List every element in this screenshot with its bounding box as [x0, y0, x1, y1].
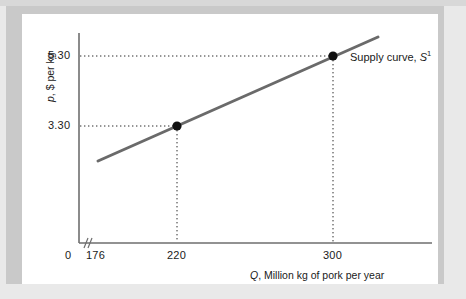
supply-curve-label-superscript: 1 [427, 49, 431, 58]
figure-root: p, $ per kg 5.30 3.30 0 176 220 300 Q, M… [0, 0, 466, 299]
supply-curve-label: Supply curve, S1 [350, 50, 431, 63]
x-axis-title-rest: , Million kg of pork per year [258, 269, 384, 281]
y-tick-label-530: 5.30 [48, 50, 70, 61]
x-tick-label-220: 220 [167, 250, 186, 261]
supply-curve-label-text: Supply curve, [350, 51, 420, 63]
x-axis-title-symbol: Q [250, 269, 258, 281]
x-axis-title: Q, Million kg of pork per year [250, 270, 384, 281]
y-tick-label-330: 3.30 [48, 120, 70, 131]
data-point-300-530 [328, 51, 337, 60]
x-tick-label-176: 176 [86, 250, 105, 261]
data-point-220-330 [172, 121, 181, 130]
supply-curve-label-symbol: S [420, 51, 427, 63]
x-tick-label-0: 0 [65, 250, 71, 261]
y-axis-title-symbol: p [44, 96, 56, 102]
figure-card: p, $ per kg 5.30 3.30 0 176 220 300 Q, M… [22, 14, 438, 284]
x-tick-label-300: 300 [323, 250, 342, 261]
